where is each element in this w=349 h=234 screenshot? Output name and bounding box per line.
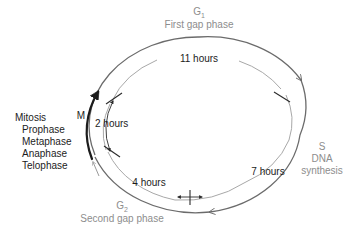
inner-arc-g1-right (239, 61, 281, 89)
s-name-line1: DNA (311, 153, 332, 164)
s-duration: 7 hours (251, 166, 284, 177)
mitosis-title: Mitosis (15, 112, 46, 123)
svg-text:G2: G2 (116, 200, 128, 213)
mitosis-stage-anaphase: Anaphase (22, 148, 67, 159)
m-symbol: M (77, 110, 85, 121)
g2-name: Second gap phase (80, 213, 164, 224)
tick-m-g1-boundary (106, 93, 122, 104)
outer-arc-s (210, 80, 306, 212)
cell-cycle-diagram: G1 First gap phase 11 hours S DNA synthe… (0, 0, 349, 234)
mitosis-arc-group (87, 92, 99, 176)
svg-text:G1: G1 (193, 6, 205, 19)
mitosis-stage-metaphase: Metaphase (22, 136, 72, 147)
g2-duration: 4 hours (132, 177, 165, 188)
s-name-line2: synthesis (301, 165, 343, 176)
phase-boundary-ticks (104, 92, 290, 205)
tick-m-g2-boundary (104, 146, 120, 157)
cell-cycle-svg: G1 First gap phase 11 hours S DNA synthe… (0, 0, 349, 234)
mitosis-stage-list: Mitosis Prophase Metaphase Anaphase Telo… (15, 112, 72, 171)
g2-label-group: G2 Second gap phase (80, 200, 164, 224)
g1-name: First gap phase (165, 19, 234, 30)
mitosis-entry-arrow (93, 162, 99, 176)
mitosis-stage-prophase: Prophase (22, 124, 65, 135)
tick-g1-s-boundary (274, 92, 290, 102)
g1-label-group: G1 First gap phase (165, 6, 234, 30)
g2-subscript: 2 (124, 206, 128, 213)
s-symbol: S (319, 141, 326, 152)
m-duration: 2 hours (95, 118, 128, 129)
s-label-group: S DNA synthesis (301, 141, 343, 176)
g1-duration: 11 hours (180, 53, 218, 64)
g1-subscript: 1 (201, 12, 205, 19)
mitosis-stage-telophase: Telophase (22, 160, 68, 171)
